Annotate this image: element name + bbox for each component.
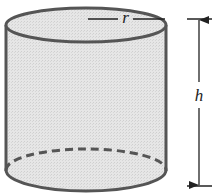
cylinder-body — [6, 25, 166, 191]
top-ellipse — [6, 8, 166, 42]
diagram-canvas: r h — [0, 0, 215, 195]
height-label: h — [195, 86, 204, 105]
radius-label: r — [122, 8, 129, 27]
cylinder-diagram: r h — [0, 0, 215, 195]
